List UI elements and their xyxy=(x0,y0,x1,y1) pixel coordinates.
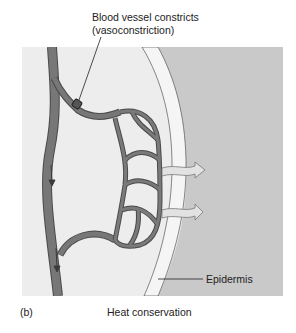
panel-letter: (b) xyxy=(20,306,33,318)
epidermis-label: Epidermis xyxy=(206,273,253,285)
figure-caption: Heat conservation xyxy=(107,306,192,318)
constriction-label-line1: Blood vessel constricts xyxy=(92,11,199,23)
constriction-label-line2: (vasoconstriction) xyxy=(92,24,174,36)
